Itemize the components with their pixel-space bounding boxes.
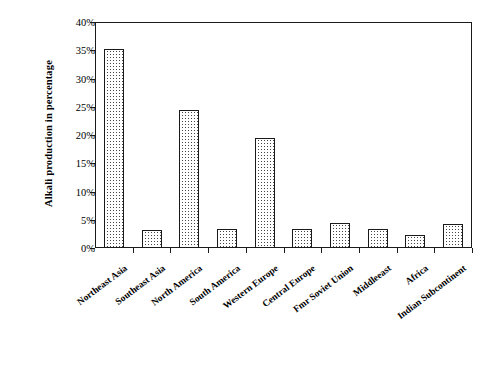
x-axis-label-group: Northeast AsiaSoutheast AsiaNorth Americ… (0, 0, 498, 365)
bar-chart-figure: Alkali production in percentage 0%5%10%1… (0, 0, 498, 365)
